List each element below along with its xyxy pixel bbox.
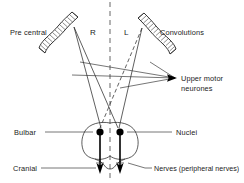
label-convolutions: Convolutions <box>160 28 204 37</box>
label-cranial: Cranial <box>13 164 37 173</box>
label-nuclei: Nuclei <box>176 128 197 137</box>
anatomical-diagram: Pre central R L Convolutions Upper motor… <box>0 0 244 183</box>
label-bulbar: Bulbar <box>14 128 36 137</box>
label-nerves: Nerves (peripheral nerves) <box>154 165 239 173</box>
label-upper-motor-line2: neurones <box>181 84 213 93</box>
label-upper-motor-line1: Upper motor <box>181 74 224 83</box>
nerves-leader-line <box>128 163 145 168</box>
tracts-from-left-cortex <box>74 27 118 128</box>
label-pre-central: Pre central <box>10 28 47 37</box>
diagram-canvas: Pre central R L Convolutions Upper motor… <box>0 0 244 183</box>
peripheral-nerve-right <box>117 133 124 174</box>
label-left-side: L <box>124 28 129 37</box>
peripheral-nerve-left <box>97 133 104 174</box>
label-right-side: R <box>90 28 96 37</box>
tracts-from-right-cortex <box>100 28 142 128</box>
upper-motor-leader-lines <box>72 62 177 88</box>
